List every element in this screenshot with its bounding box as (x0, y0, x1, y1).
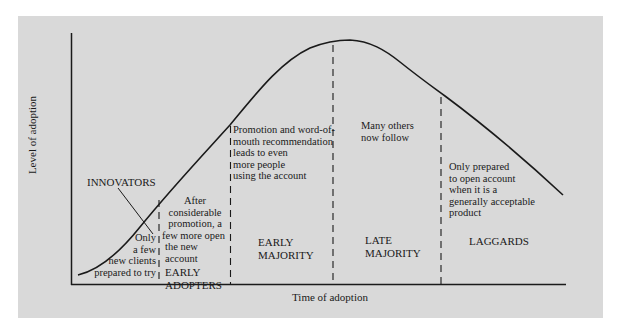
innovators-description-line: a few (80, 244, 156, 256)
laggards-description-line: generally acceptable (449, 196, 535, 208)
early-majority-label-line: MAJORITY (258, 249, 314, 262)
early-majority-label-line: EARLY (258, 236, 314, 249)
laggards-label: LAGGARDS (469, 235, 529, 248)
early-adopters-description-line: the new (165, 241, 198, 253)
early-majority-description-line: more people (233, 159, 335, 171)
early-adopters-description-line: promotion, a (160, 218, 230, 230)
early-adopters-description-line: account (165, 253, 198, 265)
early-adopters-description-line: considerable (160, 207, 230, 219)
innovators-label: INNOVATORS (87, 176, 156, 189)
laggards-description-line: product (449, 207, 535, 219)
early-majority-description: Promotion and word-of- mouth recommendat… (233, 124, 335, 182)
early-majority-description-line: Promotion and word-of- (233, 124, 335, 136)
early-majority-description-line: mouth recommendation (233, 136, 335, 148)
x-axis-label: Time of adoption (292, 291, 368, 303)
late-majority-description-line: now follow (361, 132, 414, 144)
laggards-description: Only prepared to open account when it is… (449, 161, 535, 219)
early-adopters-label: EARLY ADOPTERS (165, 266, 222, 291)
laggards-description-line: Only prepared (449, 161, 535, 173)
early-adopters-description: After considerable promotion, a few more… (160, 195, 230, 241)
laggards-description-line: when it is a (449, 184, 535, 196)
late-majority-label-line: LATE (365, 234, 421, 247)
innovators-description: Only a few new clients prepared to try (80, 232, 156, 278)
laggards-label-line: LAGGARDS (469, 235, 529, 248)
early-adopters-description-line: After (160, 195, 230, 207)
innovators-description-line: prepared to try (80, 267, 156, 279)
early-adopters-description-line: few more open (157, 230, 230, 242)
early-majority-description-line: using the account (233, 170, 335, 182)
laggards-description-line: to open account (449, 173, 535, 185)
early-majority-description-line: leads to even (233, 147, 335, 159)
late-majority-label-line: MAJORITY (365, 247, 421, 260)
innovators-description-line: Only (80, 232, 156, 244)
early-adopters-description-tail: the new account (165, 241, 198, 264)
innovators-description-line: new clients (80, 255, 156, 267)
early-majority-label: EARLY MAJORITY (258, 236, 314, 261)
late-majority-label: LATE MAJORITY (365, 234, 421, 259)
late-majority-description-line: Many others (361, 120, 414, 132)
early-adopters-label-line: EARLY (165, 266, 222, 279)
y-axis-label: Level of adoption (26, 96, 38, 174)
early-adopters-label-line: ADOPTERS (165, 279, 222, 292)
innovators-pointer-line (118, 188, 153, 234)
late-majority-description: Many others now follow (361, 120, 414, 143)
